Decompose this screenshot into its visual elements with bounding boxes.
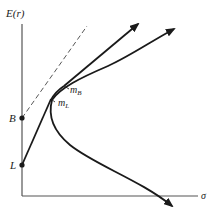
efficient-frontier-diagram: E(r) σ B L mB mL bbox=[0, 0, 216, 214]
y-axis-label: E(r) bbox=[5, 7, 25, 20]
mB-label: mB bbox=[70, 84, 82, 97]
frontier-lower-branch bbox=[51, 100, 172, 206]
point-B bbox=[19, 115, 24, 120]
point-L-label: L bbox=[9, 159, 16, 171]
lending-line bbox=[22, 99, 51, 165]
point-B-label: B bbox=[9, 112, 16, 124]
borrowing-rate-dashed-line bbox=[22, 26, 87, 118]
borrowing-line bbox=[64, 24, 138, 86]
mL-label: mL bbox=[58, 97, 69, 110]
x-axis-label: σ bbox=[201, 190, 207, 201]
point-L bbox=[19, 162, 24, 167]
